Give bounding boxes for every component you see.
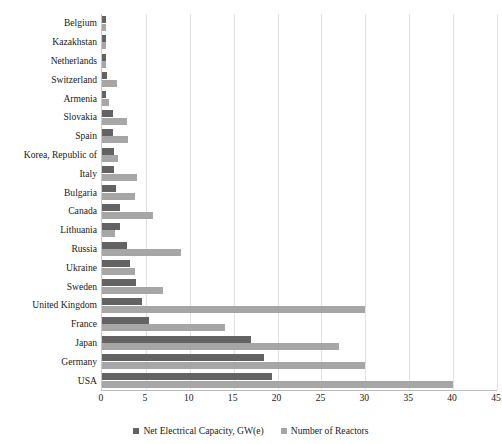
x-axis-tick: 10 xyxy=(174,392,204,403)
x-axis-tick-labels: 051015202530354045 xyxy=(0,392,502,408)
bar-net-electrical-capacity xyxy=(102,354,264,361)
bar-net-electrical-capacity xyxy=(102,54,106,61)
x-axis-tick: 30 xyxy=(349,392,379,403)
bar-net-electrical-capacity xyxy=(102,148,114,155)
bar-net-electrical-capacity xyxy=(102,223,120,230)
bar-number-of-reactors xyxy=(102,155,118,162)
bar-number-of-reactors xyxy=(102,136,128,143)
chart-bar-group xyxy=(102,127,496,146)
chart-bar-group xyxy=(102,108,496,127)
x-axis-tick: 15 xyxy=(218,392,248,403)
chart-bar-group xyxy=(102,240,496,259)
bar-net-electrical-capacity xyxy=(102,72,107,79)
bar-net-electrical-capacity xyxy=(102,129,113,136)
chart-bar-group xyxy=(102,371,496,390)
y-axis-label: Russia xyxy=(1,243,97,254)
y-axis-label: Sweden xyxy=(1,281,97,292)
legend-swatch-icon xyxy=(281,428,287,434)
y-axis-label: Germany xyxy=(1,356,97,367)
bar-number-of-reactors xyxy=(102,381,453,388)
bar-number-of-reactors xyxy=(102,230,115,237)
legend-item[interactable]: Number of Reactors xyxy=(281,425,369,436)
legend-swatch-icon xyxy=(133,428,139,434)
bar-net-electrical-capacity xyxy=(102,336,251,343)
bar-net-electrical-capacity xyxy=(102,185,116,192)
bar-net-electrical-capacity xyxy=(102,317,149,324)
bar-number-of-reactors xyxy=(102,306,365,313)
bar-net-electrical-capacity xyxy=(102,166,114,173)
chart-bar-group xyxy=(102,202,496,221)
y-axis-label: Slovakia xyxy=(1,111,97,122)
plot-area xyxy=(101,14,496,390)
y-axis-label: Italy xyxy=(1,168,97,179)
x-axis-tick: 5 xyxy=(130,392,160,403)
bar-number-of-reactors xyxy=(102,174,137,181)
chart-bar-group xyxy=(102,183,496,202)
y-axis-category-labels: BelgiumKazakhstanNetherlandsSwitzerlandA… xyxy=(0,14,97,390)
bar-number-of-reactors xyxy=(102,193,135,200)
bar-number-of-reactors xyxy=(102,268,135,275)
bar-number-of-reactors xyxy=(102,343,339,350)
bar-number-of-reactors xyxy=(102,80,117,87)
y-axis-label: Bulgaria xyxy=(1,187,97,198)
y-axis-label: France xyxy=(1,318,97,329)
chart-legend: Net Electrical Capacity, GW(e)Number of … xyxy=(0,425,502,436)
bar-number-of-reactors xyxy=(102,212,153,219)
y-axis-label: Lithuania xyxy=(1,224,97,235)
x-axis-tick: 0 xyxy=(86,392,116,403)
y-axis-label: United Kingdom xyxy=(1,299,97,310)
bar-net-electrical-capacity xyxy=(102,373,272,380)
bar-chart: BelgiumKazakhstanNetherlandsSwitzerlandA… xyxy=(0,0,502,444)
x-axis-tick: 40 xyxy=(437,392,467,403)
chart-bar-group xyxy=(102,334,496,353)
bar-number-of-reactors xyxy=(102,118,127,125)
chart-bar-group xyxy=(102,277,496,296)
x-axis-line xyxy=(101,390,497,391)
x-axis-tick: 45 xyxy=(481,392,502,403)
chart-bar-group xyxy=(102,258,496,277)
bar-number-of-reactors xyxy=(102,99,109,106)
y-axis-label: Japan xyxy=(1,337,97,348)
chart-bar-group xyxy=(102,70,496,89)
bar-number-of-reactors xyxy=(102,61,106,68)
chart-bar-group xyxy=(102,33,496,52)
y-axis-label: Kazakhstan xyxy=(1,36,97,47)
gridline xyxy=(497,14,498,390)
bar-net-electrical-capacity xyxy=(102,260,130,267)
bar-number-of-reactors xyxy=(102,249,181,256)
chart-bar-group xyxy=(102,14,496,33)
y-axis-label: Korea, Republic of xyxy=(1,149,97,160)
bar-net-electrical-capacity xyxy=(102,35,106,42)
x-axis-tick: 35 xyxy=(393,392,423,403)
bar-net-electrical-capacity xyxy=(102,204,120,211)
bar-net-electrical-capacity xyxy=(102,279,136,286)
x-axis-tick: 25 xyxy=(305,392,335,403)
chart-bar-group xyxy=(102,296,496,315)
bar-number-of-reactors xyxy=(102,324,225,331)
legend-label: Net Electrical Capacity, GW(e) xyxy=(143,425,263,436)
y-axis-label: Canada xyxy=(1,205,97,216)
y-axis-label: Netherlands xyxy=(1,55,97,66)
legend-item[interactable]: Net Electrical Capacity, GW(e) xyxy=(133,425,263,436)
bar-number-of-reactors xyxy=(102,287,163,294)
y-axis-label: Spain xyxy=(1,130,97,141)
bar-net-electrical-capacity xyxy=(102,298,142,305)
bar-number-of-reactors xyxy=(102,362,365,369)
y-axis-label: Switzerland xyxy=(1,74,97,85)
y-axis-label: USA xyxy=(1,375,97,386)
bar-net-electrical-capacity xyxy=(102,110,113,117)
y-axis-label: Ukraine xyxy=(1,262,97,273)
chart-bar-group xyxy=(102,221,496,240)
chart-bar-group xyxy=(102,164,496,183)
x-axis-tick: 20 xyxy=(262,392,292,403)
bar-number-of-reactors xyxy=(102,24,106,31)
bar-net-electrical-capacity xyxy=(102,242,127,249)
legend-label: Number of Reactors xyxy=(291,425,369,436)
bar-net-electrical-capacity xyxy=(102,91,106,98)
chart-bar-group xyxy=(102,352,496,371)
chart-bar-group xyxy=(102,52,496,71)
y-axis-label: Belgium xyxy=(1,17,97,28)
chart-bar-group xyxy=(102,89,496,108)
chart-bar-group xyxy=(102,315,496,334)
bar-net-electrical-capacity xyxy=(102,16,106,23)
